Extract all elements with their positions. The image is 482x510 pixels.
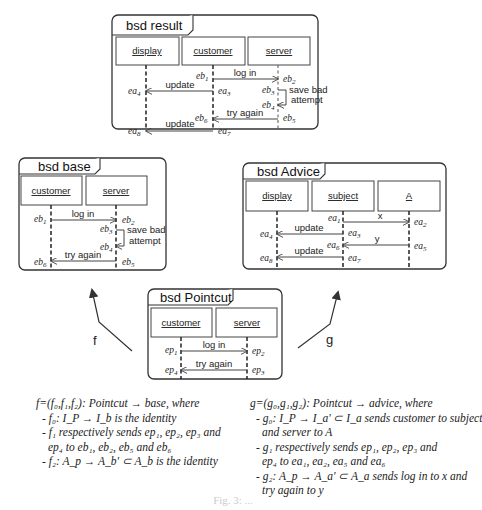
lifeline-server-label: server [266,45,292,56]
g-item-2: - g₁ respectively sends ep₁, ep₂, ep₃ an… [250,440,482,455]
figure-caption: Fig. 3: ... [0,494,466,506]
f-item-1: - f₁ respectively sends ep₁, ep₂, ep₃ an… [36,425,221,440]
g-item-4: - g₂: A_p → A_a' ⊂ A_a sends log in to x… [250,469,482,484]
g-item-1: and server to A [250,425,482,440]
msg-x-label: x [378,210,383,221]
g-item-0: - g₀: I_P → I_a' ⊂ I_a sends customer to… [250,411,482,426]
lifeline-customer-label: customer [161,317,200,328]
g-head: g=(g₀,g₁,g₂): Pointcut → advice, where [250,396,482,411]
msg-try-again-label: try again [227,107,263,118]
result-title: bsd result [126,18,183,33]
morphism-g-label: g [326,332,333,347]
msg-save-label-2: attempt [129,235,161,246]
bsd-base-diagram: bsd base customer server log in save bad… [19,158,166,270]
morphism-f-label: f [93,333,97,348]
msg-update-1-label: update [294,222,323,233]
lifeline-customer-label: customer [193,45,232,56]
msg-try-again-label: try again [196,358,232,369]
advice-title: bsd Advice [257,164,320,179]
morphism-f: f [92,290,132,351]
pointcut-title: bsd Pointcut [160,290,232,305]
f-item-2: ep₄ to eb₁, eb₂, eb₅ and eb₆ [36,440,221,455]
g-item-3: ep₄ to ea₁, ea₂, ea₅ and ea₆ [250,454,482,469]
msg-update-1-label: update [165,79,194,90]
bsd-pointcut-diagram: bsd Pointcut customer server log in try … [148,289,282,379]
g-description: g=(g₀,g₁,g₂): Pointcut → advice, where -… [250,396,482,498]
lifeline-a-label: A [406,190,413,201]
msg-log-in-label: log in [203,339,226,350]
msg-log-in-label: log in [234,67,257,78]
msg-update-2-label: update [165,118,194,129]
msg-update-2-label: update [294,245,323,256]
msg-save-label-2: attempt [291,94,323,105]
f-item-0: - f₀: I_P → I_b is the identity [36,411,221,426]
msg-y-label: y [375,233,380,244]
lifeline-subject-label: subject [328,190,358,201]
lifeline-customer-label: customer [31,185,70,196]
lifeline-display-label: display [262,190,292,201]
morphism-g: g [298,292,338,348]
msg-try-again-label: try again [65,249,101,260]
msg-log-in-label: log in [72,208,95,219]
lifeline-server-label: server [103,185,129,196]
bsd-advice-diagram: bsd Advice display subject A x update y … [243,163,446,269]
bsd-result-diagram: bsd result display customer server log i… [112,15,328,138]
f-description: f=(f₀,f₁,f₂): Pointcut → base, where - f… [36,396,221,469]
lifeline-display-label: display [132,45,162,56]
arrow-f-icon [92,290,132,351]
f-head: f=(f₀,f₁,f₂): Pointcut → base, where [36,396,221,411]
lifeline-server-label: server [234,317,260,328]
base-title: bsd base [38,159,91,174]
f-item-3: - f₂: A_p → A_b' ⊂ A_b is the identity [36,454,221,469]
